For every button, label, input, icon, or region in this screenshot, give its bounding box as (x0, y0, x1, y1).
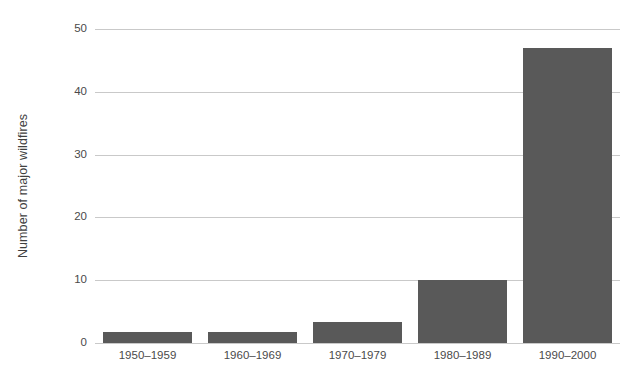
plot-area (95, 29, 620, 343)
gridline-0 (95, 343, 620, 344)
x-tick-label-1970–1979: 1970–1979 (329, 350, 387, 362)
bar-1970–1979 (313, 322, 403, 343)
x-tick-label-1960–1969: 1960–1969 (224, 350, 282, 362)
bar-1980–1989 (418, 280, 508, 343)
bar-chart: Number of major wildfires 01020304050 19… (0, 0, 633, 385)
y-axis-tick-labels: 01020304050 (43, 29, 87, 343)
y-tick-label-0: 0 (53, 337, 87, 349)
y-tick-label-20: 20 (53, 212, 87, 224)
bar-1950–1959 (103, 332, 193, 343)
x-axis-tick-labels: 1950–19591960–19691970–19791980–19891990… (95, 350, 620, 370)
y-tick-label-10: 10 (53, 274, 87, 286)
y-tick-label-50: 50 (53, 23, 87, 35)
y-tick-label-40: 40 (53, 86, 87, 98)
x-tick-label-1950–1959: 1950–1959 (119, 350, 177, 362)
x-tick-label-1980–1989: 1980–1989 (434, 350, 492, 362)
y-axis-title: Number of major wildfires (10, 29, 36, 343)
y-tick-label-30: 30 (53, 149, 87, 161)
x-tick-label-1990–2000: 1990–2000 (539, 350, 597, 362)
bar-1990–2000 (523, 48, 613, 343)
bar-1960–1969 (208, 332, 298, 343)
bars-group (95, 29, 620, 343)
